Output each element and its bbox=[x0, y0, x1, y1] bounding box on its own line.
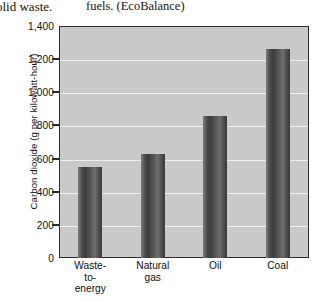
y-tick-mark bbox=[52, 124, 59, 126]
bar bbox=[141, 154, 165, 258]
page-text-left-fragment: olid waste. bbox=[0, 0, 52, 15]
y-tick-label: 0 bbox=[6, 253, 54, 264]
x-category-label-line: Coal bbox=[247, 260, 310, 272]
x-category-label: Coal bbox=[247, 260, 310, 272]
bar-slot bbox=[59, 26, 122, 258]
y-tick-label: 400 bbox=[6, 186, 54, 197]
page-text-right-fragment: fuels. (EcoBalance) bbox=[86, 0, 185, 14]
y-tick-mark bbox=[52, 158, 59, 160]
x-category-label-line: to- bbox=[59, 272, 122, 284]
bar-chart-figure: Carbon dioxide (g per kilowatt-hour) 020… bbox=[0, 18, 318, 302]
y-tick-label: 200 bbox=[6, 219, 54, 230]
x-category-label-line: Waste- bbox=[59, 260, 122, 272]
x-category-label: Naturalgas bbox=[122, 260, 185, 283]
x-category-label: Oil bbox=[184, 260, 247, 272]
bar-slot bbox=[122, 26, 185, 258]
y-tick-mark bbox=[52, 191, 59, 193]
x-category-label-line: Natural bbox=[122, 260, 185, 272]
y-tick-mark bbox=[52, 91, 59, 93]
x-category-label: Waste-to-energy bbox=[59, 260, 122, 295]
bar bbox=[203, 116, 227, 259]
bar bbox=[78, 167, 102, 258]
bar-slot bbox=[184, 26, 247, 258]
y-axis-tick-labels: 02004006008001,0001,2001,400 bbox=[6, 18, 54, 302]
y-tick-mark bbox=[52, 224, 59, 226]
y-tick-label: 1,400 bbox=[6, 21, 54, 32]
y-tick-label: 600 bbox=[6, 153, 54, 164]
bar-slot bbox=[247, 26, 310, 258]
y-tick-label: 1,200 bbox=[6, 54, 54, 65]
x-category-label-line: gas bbox=[122, 272, 185, 284]
x-axis-category-labels: Waste-to-energyNaturalgasOilCoal bbox=[59, 260, 309, 302]
bars-layer bbox=[59, 26, 309, 258]
y-tick-mark bbox=[52, 58, 59, 60]
y-tick-label: 1,000 bbox=[6, 87, 54, 98]
x-category-label-line: Oil bbox=[184, 260, 247, 272]
x-category-label-line: energy bbox=[59, 283, 122, 295]
bar bbox=[266, 49, 290, 258]
y-tick-label: 800 bbox=[6, 120, 54, 131]
